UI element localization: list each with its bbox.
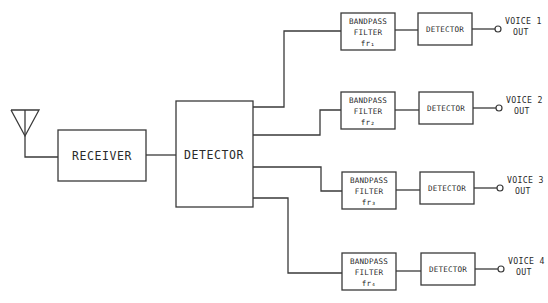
filter-4-label-line1: BANDPASS <box>350 257 388 266</box>
voice-4-out-label-line1: VOICE 4 <box>508 256 545 266</box>
filter-4-label-line2: FILTER <box>355 268 384 277</box>
detector-3-label: DETECTOR <box>428 184 466 193</box>
detector-4-label: DETECTOR <box>429 265 467 274</box>
channel-2: BANDPASS FILTER fr₂ DETECTOR VOICE 2 OUT <box>341 92 543 129</box>
output-terminal-2-icon <box>496 105 502 111</box>
filter-1-frequency: fr₁ <box>361 39 375 48</box>
filter-3-frequency: fr₃ <box>362 198 376 207</box>
main-detector-label: DETECTOR <box>184 148 244 162</box>
output-terminal-4-icon <box>498 266 504 272</box>
filter-1-label-line1: BANDPASS <box>349 17 387 26</box>
filter-2-frequency: fr₂ <box>361 118 375 127</box>
filter-3-label-line1: BANDPASS <box>350 176 388 185</box>
filter-2-label-line1: BANDPASS <box>349 96 387 105</box>
branch-line-2 <box>253 110 341 135</box>
branch-line-1 <box>253 31 341 107</box>
branch-line-4 <box>253 198 342 273</box>
receiver-block: RECEIVER <box>58 130 146 181</box>
voice-1-out-label-line1: VOICE 1 <box>505 16 542 26</box>
channel-3: BANDPASS FILTER fr₃ DETECTOR VOICE 3 OUT <box>342 172 544 209</box>
detector-2-label: DETECTOR <box>427 104 465 113</box>
voice-2-out-label-line2: OUT <box>514 106 530 116</box>
voice-2-out-label-line1: VOICE 2 <box>506 95 543 105</box>
filter-1-label-line2: FILTER <box>354 28 383 37</box>
antenna-icon <box>11 110 58 157</box>
branch-line-3 <box>253 167 342 191</box>
voice-3-out-label-line2: OUT <box>515 186 531 196</box>
output-terminal-3-icon <box>497 185 503 191</box>
voice-3-out-label-line1: VOICE 3 <box>507 175 544 185</box>
filter-2-label-line2: FILTER <box>354 107 383 116</box>
detector-1-label: DETECTOR <box>426 25 464 34</box>
channel-4: BANDPASS FILTER fr₄ DETECTOR VOICE 4 OUT <box>342 253 545 290</box>
voice-1-out-label-line2: OUT <box>513 27 529 37</box>
channel-1: BANDPASS FILTER fr₁ DETECTOR VOICE 1 OUT <box>341 13 542 50</box>
receiver-label: RECEIVER <box>72 149 132 163</box>
filter-4-frequency: fr₄ <box>362 279 376 288</box>
voice-4-out-label-line2: OUT <box>516 267 532 277</box>
filter-3-label-line2: FILTER <box>355 187 384 196</box>
block-diagram: RECEIVER DETECTOR BANDPASS FILTER fr₁ DE… <box>0 0 548 303</box>
main-detector-block: DETECTOR <box>176 101 253 207</box>
output-terminal-1-icon <box>495 26 501 32</box>
